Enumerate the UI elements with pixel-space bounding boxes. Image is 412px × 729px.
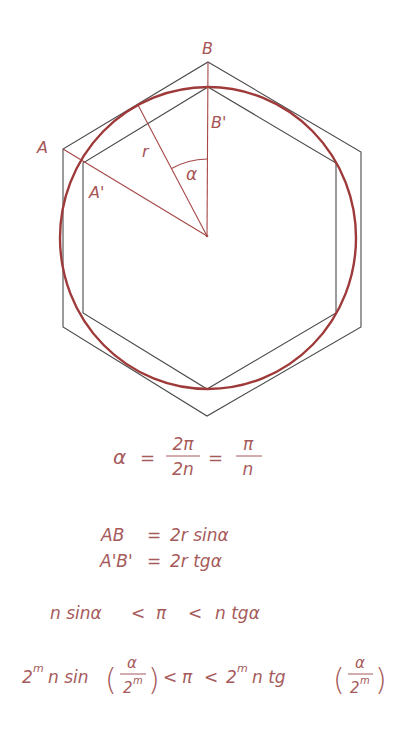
left-coefficient: 2	[22, 667, 33, 687]
less-than: <	[163, 667, 177, 687]
less-than: <	[188, 603, 202, 623]
left-function: n sin	[48, 667, 89, 687]
right-denominator-base: 2	[350, 679, 360, 697]
formula-inequality-1: n sinα < π < n tgα	[50, 603, 260, 623]
right-exponent: m	[237, 662, 248, 675]
right-paren-open: (	[333, 662, 345, 697]
left-exponent: m	[33, 662, 44, 675]
rhs: 2r sinα	[170, 525, 229, 545]
right-denominator-exponent: m	[360, 675, 370, 686]
fraction-numerator: 2π	[172, 434, 194, 454]
equals-sign: =	[147, 525, 161, 545]
right-coefficient: 2	[226, 667, 237, 687]
equals-sign: =	[147, 551, 161, 571]
right-paren-close: )	[375, 662, 387, 697]
center-point	[206, 235, 209, 238]
equals-sign: =	[208, 447, 223, 468]
right-function: n tg	[252, 667, 286, 687]
left-term: n sinα	[50, 603, 102, 623]
left-paren-close: )	[148, 662, 160, 697]
formula-AB: AB = 2r sinα	[100, 525, 229, 545]
left-denominator-exponent: m	[133, 675, 143, 686]
rhs: 2r tgα	[170, 551, 222, 571]
fraction-denominator: 2n	[172, 459, 194, 479]
fraction-denominator: n	[243, 459, 254, 479]
formula-alpha-definition: α = 2π 2n = π n	[113, 434, 262, 479]
pi-approximation-diagram: B B' A A' r α α = 2π 2n = π n AB = 2r si…	[0, 0, 412, 729]
fraction-numerator: π	[243, 434, 254, 454]
pi-symbol: π	[182, 667, 193, 687]
less-than: <	[204, 667, 218, 687]
equals-sign: =	[140, 447, 155, 468]
label-B-prime: B'	[211, 113, 226, 132]
label-alpha: α	[186, 164, 197, 184]
alpha-symbol: α	[113, 445, 126, 469]
label-A-prime: A'	[88, 183, 104, 202]
diagram-labels: B B' A A' r α	[36, 39, 226, 202]
less-than: <	[131, 603, 145, 623]
label-r: r	[142, 142, 150, 161]
inscribed-hexagon	[83, 87, 336, 389]
left-denominator-base: 2	[123, 679, 133, 697]
right-numerator: α	[355, 654, 365, 672]
lhs: AB	[100, 525, 124, 545]
formula-ApBp: A'B' = 2r tgα	[99, 551, 222, 571]
formula-inequality-2: 2 m n sin ( α 2 m ) < π < 2 m n tg ( α 2…	[22, 654, 387, 697]
label-A: A	[36, 138, 48, 157]
left-paren-open: (	[105, 662, 117, 697]
left-numerator: α	[127, 654, 137, 672]
right-term: n tgα	[215, 603, 260, 623]
lhs: A'B'	[99, 551, 133, 571]
pi-symbol: π	[156, 603, 167, 623]
label-B: B	[202, 39, 213, 58]
